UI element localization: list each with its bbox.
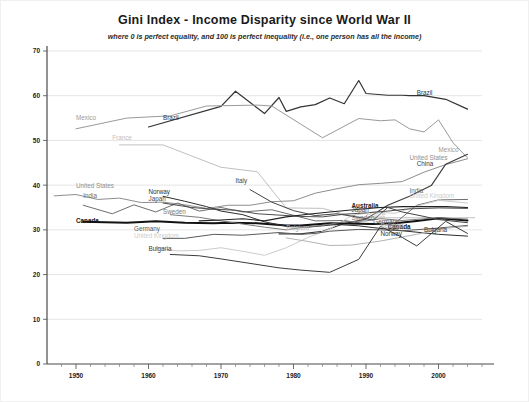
svg-text:1960: 1960 xyxy=(141,372,156,379)
series-label-brazil: Brazil xyxy=(163,114,179,121)
svg-text:1990: 1990 xyxy=(359,372,374,379)
series-label-australia: Australia xyxy=(352,202,379,209)
series-label-united-kingdom: United Kingdom xyxy=(134,232,179,240)
svg-text:10: 10 xyxy=(33,316,41,323)
svg-text:60: 60 xyxy=(33,92,41,99)
series-lines xyxy=(54,81,475,273)
y-axis-tick-labels: 010203040506070 xyxy=(33,47,41,367)
plot-area: 010203040506070 195019601970198019902000… xyxy=(1,1,529,402)
series-line-mexico xyxy=(76,105,468,158)
series-label-bulgaria: Bulgaria xyxy=(424,226,448,234)
series-label-belgium: Belgium xyxy=(286,224,309,232)
x-axis-tick-labels: 195019601970198019902000 xyxy=(69,372,446,379)
series-line-brazil xyxy=(149,81,468,128)
series-label-norway: Norway xyxy=(381,230,403,238)
series-label-france: France xyxy=(112,134,132,141)
svg-text:1950: 1950 xyxy=(69,372,84,379)
series-label-sweden: Sweden xyxy=(163,208,186,215)
series-label-belgium: Belgium xyxy=(381,222,404,230)
series-label-italy: Italy xyxy=(236,177,248,185)
series-inline-labels: BrazilBrazilMexicoMexicoFranceFranceUnit… xyxy=(76,89,459,254)
svg-text:70: 70 xyxy=(33,47,41,54)
series-label-mexico: Mexico xyxy=(76,114,96,121)
series-label-germany: Germany xyxy=(134,225,161,233)
svg-text:50: 50 xyxy=(33,137,41,144)
series-label-japan: Japan xyxy=(149,195,167,203)
svg-text:0: 0 xyxy=(36,360,40,367)
svg-text:1980: 1980 xyxy=(286,372,301,379)
gini-index-line-chart: 010203040506070 195019601970198019902000… xyxy=(1,1,529,402)
series-label-canada: Canada xyxy=(76,217,99,224)
series-label-mexico: Mexico xyxy=(439,146,459,153)
series-label-brazil: Brazil xyxy=(417,89,433,96)
series-label-china: China xyxy=(417,160,434,167)
chart-frame: Gini Index - Income Disparity since Worl… xyxy=(0,0,529,402)
svg-text:1970: 1970 xyxy=(214,372,229,379)
series-label-sweden: Sweden xyxy=(352,214,375,221)
series-label-bulgaria: Bulgaria xyxy=(149,245,173,253)
series-line-united-states xyxy=(54,159,467,209)
svg-text:30: 30 xyxy=(33,226,41,233)
svg-text:20: 20 xyxy=(33,271,41,278)
svg-text:2000: 2000 xyxy=(431,372,446,379)
series-label-united-states: United States xyxy=(76,182,114,189)
svg-text:40: 40 xyxy=(33,182,41,189)
series-label-united-kingdom: United Kingdom xyxy=(410,192,455,200)
series-label-india: India xyxy=(83,192,97,199)
